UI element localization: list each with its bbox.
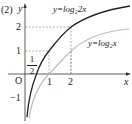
curve-label-log2-2x: y=log₂2x xyxy=(53,5,86,14)
x-tick-1: 1 xyxy=(47,77,52,87)
fraction-numerator: 1 xyxy=(30,54,35,64)
x-tick-half: 1 2 xyxy=(27,55,37,76)
y-tick-neg1: −1 xyxy=(10,93,21,103)
y-tick-1: 1 xyxy=(16,46,21,56)
y-tick-2: 2 xyxy=(16,22,21,32)
curve-label-log2x: y=log₂x xyxy=(88,39,117,48)
curve-log2-2x xyxy=(27,6,130,117)
log-graph-figure: (2) y x O 2 1 −1 1 2 1 2 y=log₂2x y=log₂… xyxy=(0,0,132,124)
y-axis-label: y xyxy=(18,4,22,14)
x-tick-2: 2 xyxy=(68,77,73,87)
x-axis-label: x xyxy=(124,77,128,87)
origin-label: O xyxy=(15,76,22,86)
graph-canvas xyxy=(0,0,132,124)
fraction-denominator: 2 xyxy=(30,66,35,76)
problem-number: (2) xyxy=(1,5,13,15)
y-axis-arrow-icon xyxy=(23,3,26,8)
